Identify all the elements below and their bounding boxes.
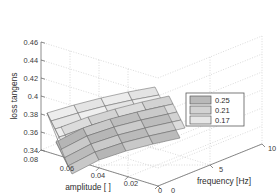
- x-tick-label: 0.08: [24, 155, 38, 164]
- figure-canvas: 0.46 0.44 0.42 0.4 0.38 0.36 0.34 0.08 0…: [0, 0, 278, 196]
- legend-swatch-2: [190, 116, 211, 124]
- legend-label-0: 0.25: [215, 96, 230, 105]
- z-tick-label: 0.44: [24, 56, 38, 65]
- z-tick-label: 0.42: [24, 74, 38, 83]
- y-tick-label: 5: [219, 165, 223, 174]
- x-axis-title: amplitude [ ]: [65, 182, 111, 192]
- x-tick-label: 0.06: [60, 164, 74, 173]
- x-tick-label: 0: [158, 186, 162, 195]
- y-tick-label: 10: [268, 144, 276, 153]
- legend-label-1: 0.21: [215, 106, 230, 115]
- z-tick-label: 0.36: [24, 128, 38, 137]
- y-axis-title: frequency [Hz]: [197, 176, 251, 186]
- legend-swatch-1: [190, 106, 211, 114]
- z-tick-label: 0.46: [24, 38, 38, 47]
- y-tick-label: 0: [171, 186, 175, 195]
- legend-label-2: 0.17: [215, 116, 230, 125]
- legend[interactable]: 0.25 0.21 0.17: [186, 93, 244, 126]
- z-axis-title: loss tangens: [9, 72, 19, 119]
- x-tick-label: 0.02: [124, 179, 138, 188]
- surface-plot-3d: 0.46 0.44 0.42 0.4 0.38 0.36 0.34 0.08 0…: [0, 0, 278, 196]
- z-tick-label: 0.4: [28, 92, 38, 101]
- x-tick-label: 0.04: [91, 171, 105, 180]
- z-tick-label: 0.38: [24, 110, 38, 119]
- legend-swatch-0: [190, 96, 211, 104]
- z-tick-label: 0.34: [24, 146, 38, 155]
